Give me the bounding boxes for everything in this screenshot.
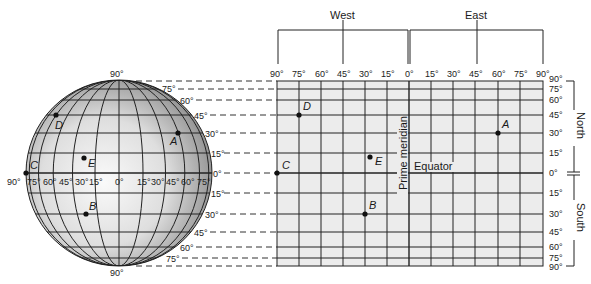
north-south-brackets xyxy=(566,81,580,266)
grid-point-b-label: B xyxy=(369,199,376,211)
svg-text:15°: 15° xyxy=(549,188,563,198)
south-label: South xyxy=(575,203,587,232)
lat-lon-grid: Prime meridian Equator xyxy=(277,81,543,266)
svg-text:45°: 45° xyxy=(469,69,483,79)
svg-text:60°: 60° xyxy=(492,69,506,79)
svg-text:30°: 30° xyxy=(359,69,373,79)
svg-text:90°: 90° xyxy=(536,69,550,79)
globe-north-pole-label: 90° xyxy=(110,69,124,79)
svg-text:90°: 90° xyxy=(7,177,21,187)
grid-point-c-label: C xyxy=(282,159,290,171)
svg-text:45°: 45° xyxy=(194,228,208,238)
grid-point-b xyxy=(362,211,367,216)
globe-point-b xyxy=(83,211,88,216)
svg-text:90°: 90° xyxy=(549,74,563,84)
svg-text:30°: 30° xyxy=(75,177,89,187)
svg-text:30°: 30° xyxy=(447,69,461,79)
svg-text:75°: 75° xyxy=(166,254,180,264)
north-label: North xyxy=(575,112,587,139)
svg-text:0°: 0° xyxy=(405,69,414,79)
svg-text:75°: 75° xyxy=(27,177,41,187)
svg-text:60°: 60° xyxy=(549,242,563,252)
svg-text:75°: 75° xyxy=(549,84,563,94)
svg-text:90°: 90° xyxy=(549,262,563,272)
prime-meridian-label: Prime meridian xyxy=(397,116,409,190)
grid-point-e-label: E xyxy=(375,155,383,167)
svg-text:45°: 45° xyxy=(59,177,73,187)
grid-point-d xyxy=(296,112,301,117)
svg-text:75°: 75° xyxy=(292,69,306,79)
grid-point-e xyxy=(367,154,372,159)
svg-text:60°: 60° xyxy=(181,177,195,187)
svg-text:15°: 15° xyxy=(381,69,395,79)
globe-point-a-label: A xyxy=(169,135,177,147)
latitude-labels: 90° 75° 60° 45° 30° 15° 0° 15° 30° 45° 6… xyxy=(549,74,563,272)
grid-point-a-label: A xyxy=(501,118,509,130)
svg-text:15°: 15° xyxy=(211,189,225,199)
svg-text:30°: 30° xyxy=(205,129,219,139)
svg-text:0°: 0° xyxy=(115,177,124,187)
svg-text:30°: 30° xyxy=(549,128,563,138)
svg-text:45°: 45° xyxy=(194,111,208,121)
svg-text:75°: 75° xyxy=(514,69,528,79)
globe-point-b-label: B xyxy=(89,200,96,212)
west-label: West xyxy=(330,9,355,21)
globe-point-c xyxy=(23,170,28,175)
svg-text:15°: 15° xyxy=(89,177,103,187)
grid-point-d-label: D xyxy=(303,100,311,112)
svg-text:15°: 15° xyxy=(211,149,225,159)
east-label: East xyxy=(465,9,487,21)
svg-text:90°: 90° xyxy=(270,69,284,79)
latitude-longitude-diagram: 90° 90° 90° 75° 60° 45° 30° 15° 0° 15° 3… xyxy=(0,0,591,284)
svg-text:60°: 60° xyxy=(549,95,563,105)
equator-label: Equator xyxy=(414,160,453,172)
svg-text:60°: 60° xyxy=(180,96,194,106)
svg-text:0°: 0° xyxy=(549,168,558,178)
globe-south-pole-label: 90° xyxy=(110,268,124,278)
svg-text:15°: 15° xyxy=(549,148,563,158)
globe-point-e xyxy=(81,155,86,160)
globe-point-c-label: C xyxy=(30,159,38,171)
svg-text:60°: 60° xyxy=(315,69,329,79)
svg-text:60°: 60° xyxy=(43,177,57,187)
svg-text:30°: 30° xyxy=(205,210,219,220)
svg-text:45°: 45° xyxy=(337,69,351,79)
grid-point-a xyxy=(495,130,500,135)
svg-text:30°: 30° xyxy=(549,209,563,219)
svg-text:75°: 75° xyxy=(197,177,211,187)
svg-text:45°: 45° xyxy=(549,110,563,120)
globe: 90° 90° 90° 75° 60° 45° 30° 15° 0° 15° 3… xyxy=(7,69,225,278)
svg-text:45°: 45° xyxy=(549,227,563,237)
hemisphere-brackets xyxy=(278,20,543,64)
globe-point-d xyxy=(53,112,58,117)
svg-text:75°: 75° xyxy=(162,84,176,94)
svg-text:0°: 0° xyxy=(213,169,222,179)
globe-point-e-label: E xyxy=(88,157,96,169)
svg-text:60°: 60° xyxy=(180,243,194,253)
svg-text:45°: 45° xyxy=(166,177,180,187)
globe-point-d-label: D xyxy=(55,119,63,131)
svg-text:15°: 15° xyxy=(425,69,439,79)
svg-text:15°: 15° xyxy=(137,177,151,187)
grid-point-c xyxy=(274,170,279,175)
svg-text:30°: 30° xyxy=(151,177,165,187)
longitude-labels: 90° 75° 60° 45° 30° 15° 0° 15° 30° 45° 6… xyxy=(270,69,550,79)
